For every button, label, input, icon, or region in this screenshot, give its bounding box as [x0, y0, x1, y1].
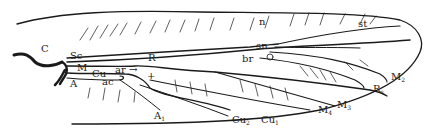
label-subcosta: Sc — [70, 51, 82, 61]
label-m2: M2 — [391, 72, 405, 83]
vein-m2 — [270, 52, 387, 82]
label-costa: C — [41, 44, 49, 54]
label-m4: M4 — [318, 105, 332, 116]
label-arculus: ar → — [115, 65, 137, 75]
crossveins — [80, 13, 376, 102]
label-anal: A — [70, 79, 77, 89]
label-anal-crossing: ac — [102, 77, 114, 87]
label-rs: Rs — [373, 84, 384, 95]
wing-base-humeral — [14, 54, 62, 66]
label-triangle: + — [147, 71, 155, 81]
vein-radial-sector — [260, 58, 364, 88]
vein-m4 — [150, 80, 310, 110]
label-nodus: n — [259, 17, 265, 27]
label-media: M — [77, 63, 87, 73]
wing-venation-drawing — [0, 0, 434, 136]
label-bridge: br — [242, 54, 253, 64]
label-radius: R — [148, 53, 156, 63]
vein-radius — [67, 40, 410, 62]
label-a1: A1 — [154, 111, 165, 122]
label-cu1: Cu1 — [261, 115, 279, 126]
label-subnodus: sn — [256, 41, 268, 51]
label-m3: M3 — [337, 100, 351, 111]
label-cu2: Cu2 — [232, 115, 250, 126]
label-stigma: st — [358, 19, 367, 29]
